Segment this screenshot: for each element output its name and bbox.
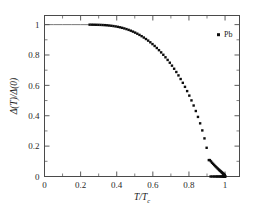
data-point-marker bbox=[199, 122, 201, 124]
data-point-marker bbox=[143, 36, 145, 38]
data-point-marker bbox=[166, 59, 168, 61]
data-point-marker bbox=[127, 29, 129, 31]
data-point-marker bbox=[190, 99, 192, 101]
data-point-marker bbox=[169, 62, 171, 64]
data-point-marker bbox=[123, 27, 125, 29]
data-point-marker bbox=[158, 49, 160, 51]
data-point-marker bbox=[164, 56, 166, 58]
data-point-marker bbox=[99, 24, 101, 26]
y-tick-label: 0.8 bbox=[28, 50, 40, 60]
data-point-marker bbox=[125, 28, 127, 30]
data-point-marker bbox=[97, 24, 99, 26]
y-tick-label: 0.2 bbox=[28, 141, 39, 151]
y-tick-label: 0.4 bbox=[28, 111, 40, 121]
data-point-marker bbox=[95, 24, 97, 26]
data-point-marker bbox=[151, 43, 153, 45]
data-point-marker bbox=[110, 25, 112, 27]
figure-panel: 00.20.40.60.81 00.20.40.60.81 T/Tc Δ(T)/… bbox=[0, 0, 270, 217]
y-axis-label-text: Δ(T)/Δ(0) bbox=[9, 78, 20, 115]
data-point-marker bbox=[88, 23, 90, 25]
x-tick-label: 0.8 bbox=[183, 180, 195, 190]
data-point-marker bbox=[224, 175, 226, 177]
x-tick-label: 1 bbox=[223, 180, 228, 190]
data-point-marker bbox=[184, 86, 186, 88]
data-point-marker bbox=[93, 24, 95, 26]
data-point-marker bbox=[179, 78, 181, 80]
data-point-marker bbox=[201, 129, 203, 131]
x-tick-label: 0.4 bbox=[111, 180, 123, 190]
data-point-marker bbox=[173, 68, 175, 70]
data-point-marker bbox=[175, 71, 177, 73]
data-point-marker bbox=[153, 45, 155, 47]
data-point-marker bbox=[188, 94, 190, 96]
data-point-marker bbox=[140, 35, 142, 37]
x-tick-label: 0 bbox=[42, 180, 47, 190]
data-point-marker bbox=[134, 31, 136, 33]
data-point-marker bbox=[197, 116, 199, 118]
data-point-marker bbox=[186, 90, 188, 92]
data-point-marker bbox=[121, 27, 123, 29]
data-point-marker bbox=[136, 33, 138, 35]
y-tick-label: 0.6 bbox=[28, 81, 40, 91]
data-point-marker bbox=[104, 24, 106, 26]
y-tick-label: 1 bbox=[35, 20, 40, 30]
data-point-marker bbox=[145, 38, 147, 40]
data-point-marker bbox=[138, 34, 140, 36]
x-tick-label: 0.2 bbox=[75, 180, 86, 190]
data-point-marker bbox=[106, 24, 108, 26]
data-point-marker bbox=[171, 64, 173, 66]
data-point-marker bbox=[192, 104, 194, 106]
data-point-marker bbox=[182, 82, 184, 84]
data-point-marker bbox=[130, 30, 132, 32]
data-point-marker bbox=[112, 25, 114, 27]
data-point-marker bbox=[203, 137, 205, 139]
data-point-marker bbox=[160, 51, 162, 53]
data-point-marker bbox=[91, 23, 93, 25]
data-point-marker bbox=[101, 24, 103, 26]
data-point-marker bbox=[119, 26, 121, 28]
data-point-marker bbox=[162, 54, 164, 56]
data-point-marker bbox=[114, 25, 116, 27]
data-point-marker bbox=[177, 74, 179, 76]
x-tick-label: 0.6 bbox=[147, 180, 159, 190]
data-point-marker bbox=[149, 41, 151, 43]
legend-label-pb: Pb bbox=[224, 30, 232, 39]
data-point-marker bbox=[117, 26, 119, 28]
gap-ratio-scatter-plot: 00.20.40.60.81 00.20.40.60.81 T/Tc Δ(T)/… bbox=[0, 0, 270, 217]
data-point-marker bbox=[195, 110, 197, 112]
data-point-marker bbox=[108, 24, 110, 26]
legend-marker-icon bbox=[217, 33, 220, 36]
data-point-marker bbox=[132, 30, 134, 32]
data-point-marker bbox=[156, 47, 158, 49]
x-axis-label-subscript: c bbox=[147, 197, 150, 204]
data-point-marker bbox=[205, 147, 207, 149]
data-point-marker bbox=[147, 39, 149, 41]
y-tick-label: 0 bbox=[35, 172, 40, 182]
y-axis-label: Δ(T)/Δ(0) bbox=[9, 78, 20, 115]
